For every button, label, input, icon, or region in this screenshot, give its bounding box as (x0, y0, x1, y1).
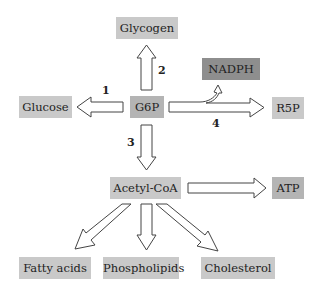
node-glycogen: Glycogen (116, 17, 178, 39)
node-glucose: Glucose (19, 96, 72, 118)
node-phospholipids: Phospholipids (103, 257, 179, 279)
pathway-label-3: 3 (127, 136, 135, 149)
arrows-layer (0, 0, 322, 290)
arrow-acetyl-coa-to-atp (188, 178, 266, 198)
arrow-acetyl-coa-to-fatty-acids (75, 204, 131, 249)
pathway-label-4: 4 (212, 117, 220, 130)
node-nadph: NADPH (202, 58, 260, 80)
node-atp: ATP (272, 177, 304, 199)
arrow-g6p-to-acetyl-coa (137, 125, 156, 170)
node-acetyl-coa: Acetyl-CoA (110, 177, 181, 199)
pathway-label-2: 2 (158, 64, 166, 77)
arrow-acetyl-coa-to-phospholipids (137, 204, 156, 250)
node-cholesterol: Cholesterol (201, 257, 275, 279)
pathway-label-1: 1 (102, 84, 110, 97)
arrow-g6p-to-r5p (169, 85, 264, 117)
metabolic-pathway-diagram: Glycogen NADPH Glucose G6P R5P Acetyl-Co… (0, 0, 322, 290)
arrow-acetyl-coa-to-cholesterol (156, 204, 218, 251)
node-g6p: G6P (130, 96, 164, 118)
arrow-g6p-to-glycogen (137, 45, 156, 90)
node-r5p: R5P (272, 97, 304, 119)
node-fatty-acids: Fatty acids (19, 257, 91, 279)
arrow-g6p-to-glucose (77, 97, 123, 117)
